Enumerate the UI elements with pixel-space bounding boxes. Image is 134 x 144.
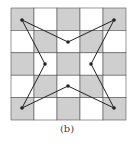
vertex-dot — [112, 18, 116, 22]
vertex-dot — [66, 40, 70, 44]
vertex-dot — [20, 106, 24, 110]
vertex-dot — [89, 62, 93, 66]
checkerboard-grid — [11, 8, 126, 120]
grid-cell — [11, 30, 34, 52]
grid-cell — [103, 53, 126, 75]
grid-cell — [80, 30, 103, 52]
grid-cell — [80, 75, 103, 97]
grid-cell — [57, 8, 80, 30]
vertex-dot — [66, 84, 70, 88]
grid-cell — [11, 75, 34, 97]
grid-cell — [11, 53, 34, 75]
vertex-dot — [112, 106, 116, 110]
grid-cell — [57, 98, 80, 120]
vertex-dot — [20, 18, 24, 22]
grid-cell — [57, 53, 80, 75]
figure-caption: (b) — [0, 123, 134, 134]
vertex-dot — [43, 62, 47, 66]
